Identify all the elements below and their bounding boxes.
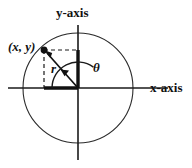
y-axis-label: y-axis [56, 5, 89, 21]
point-coordinates-label: (x, y) [8, 39, 35, 55]
angle-theta-label: θ [93, 60, 100, 76]
x-axis-label: x-axis [150, 80, 183, 96]
point-marker [41, 47, 48, 54]
radius-label: r [51, 61, 56, 77]
figure-canvas: y-axis x-axis (x, y) r θ [0, 0, 192, 168]
